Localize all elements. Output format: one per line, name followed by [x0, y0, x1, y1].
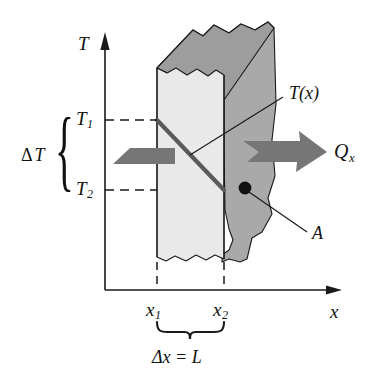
- thickness-label: Δx = L: [152, 348, 202, 366]
- heat-conduction-figure: T x T1 T2 { ΔT x1 x2 Δx = L T(x) A Qx: [0, 0, 383, 386]
- t2-symbol: T: [76, 178, 87, 199]
- temperature-t2-label: T2: [76, 179, 93, 201]
- heat-flux-symbol: Q: [334, 140, 348, 162]
- position-x2-label: x2: [213, 300, 228, 322]
- heat-flux-label: Qx: [334, 141, 355, 164]
- delta-t-symbol: T: [35, 145, 45, 165]
- t1-symbol: T: [76, 108, 87, 129]
- area-callout-label: A: [312, 224, 323, 242]
- t2-subscript: 2: [87, 187, 94, 201]
- delta-t-label: ΔT: [21, 146, 45, 164]
- x-axis-label: x: [330, 302, 338, 321]
- thickness-underbrace: [157, 322, 224, 339]
- y-axis-arrowhead: [100, 32, 109, 50]
- y-axis-label: T: [78, 34, 89, 53]
- x2-subscript: 2: [221, 308, 228, 322]
- heat-flow-arrow-in: [113, 148, 175, 164]
- delta-t-brace: {: [55, 104, 74, 195]
- temperature-t1-label: T1: [76, 109, 93, 131]
- slab-front-face: [157, 68, 224, 261]
- t1-subscript: 1: [87, 117, 94, 131]
- x1-subscript: 1: [154, 308, 161, 322]
- delta-symbol: Δ: [21, 145, 33, 165]
- heat-flux-subscript: x: [348, 151, 354, 165]
- profile-callout-label: T(x): [289, 84, 319, 102]
- x-axis-arrowhead: [326, 285, 342, 294]
- position-x1-label: x1: [146, 300, 161, 322]
